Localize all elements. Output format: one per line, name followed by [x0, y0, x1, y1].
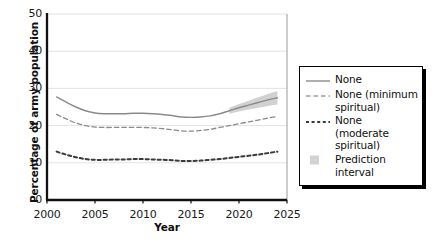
line-solid-icon	[305, 73, 331, 87]
legend-label-none-minimum-spiritual: None (minimum spiritual)	[335, 88, 418, 113]
x-tick-label-wrap: 2020	[219, 203, 259, 217]
band-swatch-icon	[305, 153, 331, 167]
x-tick-label: 2005	[81, 208, 108, 221]
x-tick-label: 2010	[129, 208, 156, 221]
legend-item-none-minimum-spiritual: None (minimum spiritual)	[305, 88, 418, 113]
x-tick-label: 2000	[33, 208, 60, 221]
x-tick-label-wrap: 2010	[123, 203, 163, 217]
legend-label-none: None	[335, 73, 362, 86]
chart-figure: 01020304050 200020052010201520202025 Per…	[0, 0, 434, 247]
line-dashed-icon	[305, 88, 331, 102]
legend-label-none-moderate-spiritual: None (moderate spiritual)	[335, 114, 418, 152]
series-line-2	[57, 152, 278, 161]
legend-item-none-moderate-spiritual: None (moderate spiritual)	[305, 114, 418, 152]
y-axis-title: Percentage of army population	[28, 23, 40, 203]
legend-item-none: None	[305, 73, 418, 87]
x-axis-title: Year	[47, 221, 287, 233]
y-tick-label: 50	[20, 8, 42, 19]
x-tick-label: 2015	[177, 208, 204, 221]
legend-item-prediction-interval: Prediction interval	[305, 153, 418, 178]
x-tick-label: 2020	[225, 208, 252, 221]
x-tick-label-wrap: 2015	[171, 203, 211, 217]
x-tick-label-wrap: 2000	[27, 203, 67, 217]
prediction-interval-band	[229, 91, 277, 114]
line-dashed-bold-icon	[305, 114, 331, 128]
chart-legend: None None (minimum spiritual) None (mode…	[299, 66, 423, 186]
x-tick-label-wrap: 2025	[267, 203, 307, 217]
x-tick-label-wrap: 2005	[75, 203, 115, 217]
x-tick-label: 2025	[273, 208, 300, 221]
series-line-1	[57, 114, 278, 131]
legend-label-prediction-interval: Prediction interval	[335, 153, 418, 178]
